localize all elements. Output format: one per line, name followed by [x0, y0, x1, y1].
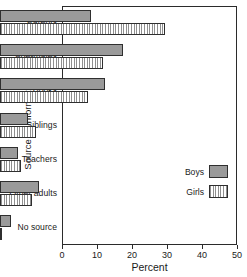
bar-boys-parents: [0, 10, 91, 22]
x-axis-tick-label: 40: [187, 250, 217, 260]
x-axis-title: Percent: [62, 261, 237, 273]
bar-girls-parents: [0, 23, 165, 35]
bar-boys-siblings: [0, 113, 28, 125]
legend-label-boys: Boys: [185, 167, 204, 177]
bar-boys-age-mates: [0, 44, 123, 56]
bar-girls-siblings: [0, 126, 36, 138]
legend-label-girls: Girls: [186, 187, 204, 197]
x-axis-tick: [97, 245, 98, 249]
bar-girls-no-source: [0, 228, 2, 240]
x-axis-tick: [167, 245, 168, 249]
bar-girls-teachers: [0, 160, 21, 172]
bar-boys-other-adults: [0, 181, 39, 193]
legend-swatch-girls: [209, 185, 228, 198]
bar-girls-age-mates: [0, 57, 103, 69]
x-axis-tick-label: 10: [82, 250, 112, 260]
bar-boys-teachers: [0, 147, 18, 159]
x-axis-tick: [237, 245, 238, 249]
x-axis-tick-label: 20: [117, 250, 147, 260]
bar-boys-books: [0, 78, 105, 90]
x-axis-tick: [132, 245, 133, 249]
bar-girls-other-adults: [0, 194, 32, 206]
x-axis-tick-label: 50: [222, 250, 247, 260]
x-axis-tick-label: 30: [152, 250, 182, 260]
bar-boys-no-source: [0, 215, 11, 227]
bar-girls-books: [0, 91, 88, 103]
x-axis-tick-label: 0: [47, 250, 77, 260]
plot-area: [62, 6, 237, 245]
x-axis-tick: [62, 245, 63, 249]
legend-swatch-boys: [209, 165, 228, 178]
legend-item-boys: Boys: [170, 165, 228, 180]
x-axis-tick: [202, 245, 203, 249]
legend: Boys Girls: [170, 165, 228, 205]
bar-chart-figure: Source of information ParentsAge-matesBo…: [0, 0, 247, 277]
legend-item-girls: Girls: [170, 185, 228, 200]
